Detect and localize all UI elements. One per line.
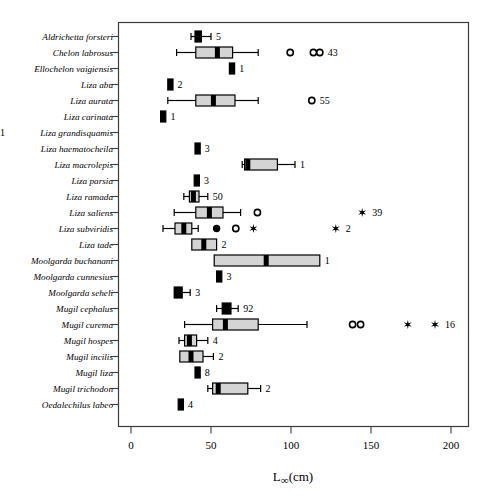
species-label: Mugil trichodon — [52, 384, 113, 394]
sample-size-label: 1 — [170, 111, 175, 122]
sample-size-label: 92 — [243, 303, 253, 314]
sample-size-label: 39 — [372, 207, 382, 218]
boxplot-row: 1 — [0, 127, 5, 138]
sample-size-label: 1 — [300, 159, 305, 170]
x-axis-title-base: L — [273, 469, 281, 484]
species-label-group: Aldrichetta forsteriChelon labrosusElloc… — [30, 32, 119, 410]
sample-size-label: 3 — [226, 271, 231, 282]
species-label: Liza macrolepis — [53, 160, 113, 170]
sample-size-label: 3 — [205, 143, 210, 154]
outlier-open-circle — [233, 225, 239, 231]
median-line — [178, 399, 183, 410]
species-label: Liza grandisquamis — [39, 128, 113, 138]
median-line — [207, 207, 212, 218]
species-label: Mugil hospes — [63, 336, 114, 346]
species-label: Ellochelon vaigiensis — [33, 64, 113, 74]
median-line — [174, 287, 182, 298]
median-line — [191, 191, 196, 202]
chart-root: Aldrichetta forsteriChelon labrosusElloc… — [0, 0, 477, 498]
median-line — [187, 335, 192, 346]
median-line — [195, 143, 200, 154]
species-label: Mugil liza — [74, 368, 113, 378]
sample-size-label: 1 — [325, 255, 330, 266]
median-line — [217, 271, 222, 282]
species-label: Liza saliens — [68, 208, 113, 218]
species-label: Mugil incilis — [65, 352, 113, 362]
median-line — [245, 159, 250, 170]
sample-size-label: 4 — [213, 335, 218, 346]
sample-size-label: 1 — [239, 63, 244, 74]
x-axis-tick-label: 100 — [283, 439, 300, 451]
sample-size-label: 3 — [195, 287, 200, 298]
sample-size-label: 43 — [328, 47, 338, 58]
median-line — [264, 255, 269, 266]
sample-size-label: 1 — [0, 127, 5, 138]
median-line — [216, 383, 221, 394]
species-label: Aldrichetta forsteri — [41, 32, 113, 42]
species-label: Liza ramada — [65, 192, 113, 202]
species-label: Mugil cephalus — [55, 304, 113, 314]
outlier-open-circle — [358, 321, 364, 327]
species-label: Liza abu — [80, 80, 113, 90]
x-axis-tick-label: 50 — [206, 439, 218, 451]
outlier-open-circle — [287, 49, 293, 55]
median-line — [229, 63, 234, 74]
median-line — [194, 175, 199, 186]
species-label: Liza haematocheila — [40, 144, 114, 154]
sample-size-label: 55 — [320, 95, 330, 106]
sample-size-label: 16 — [445, 319, 455, 330]
outlier-open-circle — [310, 49, 316, 55]
sample-size-label: 2 — [266, 383, 271, 394]
median-line — [189, 351, 194, 362]
median-line — [215, 47, 220, 58]
median-line — [195, 31, 201, 42]
outlier-open-circle — [350, 321, 356, 327]
sample-size-label: 2 — [178, 79, 183, 90]
outlier-open-circle — [254, 209, 260, 215]
sample-size-label: 2 — [346, 223, 351, 234]
x-axis-title: L∞(cm) — [273, 469, 313, 486]
species-label: Liza tade — [78, 240, 113, 250]
median-line — [211, 95, 216, 106]
x-axis-tick-group: 050100150200 — [128, 427, 460, 451]
box-iqr — [213, 319, 259, 330]
species-label: Moolgarda buchanani — [30, 256, 114, 266]
species-label: Moolgarda cunnesius — [32, 272, 113, 282]
x-axis-tick-label: 200 — [443, 439, 460, 451]
sample-size-label: 50 — [213, 191, 223, 202]
species-label: Liza parsia — [70, 176, 113, 186]
sample-size-label: 4 — [188, 399, 193, 410]
x-axis-tick-label: 150 — [363, 439, 380, 451]
median-line — [181, 223, 186, 234]
species-label: Liza carinata — [63, 112, 114, 122]
median-line — [161, 111, 166, 122]
box-iqr — [196, 47, 233, 58]
boxplot-row: 1 — [214, 255, 330, 266]
x-axis-title-unit: (cm) — [289, 469, 314, 484]
x-axis-title-sub: ∞ — [281, 474, 289, 486]
species-label: Oedalechilus labeo — [42, 400, 114, 410]
median-line — [201, 239, 206, 250]
species-label: Mugil curema — [61, 320, 114, 330]
sample-size-label: 5 — [216, 31, 221, 42]
sample-size-label: 2 — [222, 239, 227, 250]
outlier-open-circle — [309, 97, 315, 103]
species-label: Moolgarda seheli — [47, 288, 113, 298]
outlier-open-circle — [317, 49, 323, 55]
median-line — [222, 303, 231, 314]
sample-size-label: 2 — [218, 351, 223, 362]
sample-size-label: 8 — [205, 367, 210, 378]
x-axis-tick-label: 0 — [128, 439, 134, 451]
median-line — [223, 319, 228, 330]
median-line — [168, 79, 173, 90]
boxplot-row: 2 — [192, 239, 227, 250]
outlier-filled-circle — [214, 225, 220, 231]
species-label: Chelon labrosus — [53, 48, 114, 58]
sample-size-label: 3 — [204, 175, 209, 186]
median-line — [195, 367, 200, 378]
boxplot-figure: Aldrichetta forsteriChelon labrosusElloc… — [0, 0, 477, 498]
species-label: Liza subviridis — [58, 224, 114, 234]
species-label: Liza aurata — [69, 96, 113, 106]
